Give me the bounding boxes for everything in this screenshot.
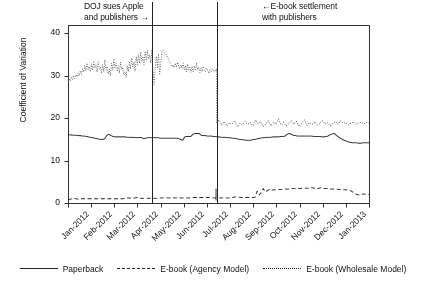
annotation-line: with publishers — [262, 12, 337, 23]
legend-label: Paperback — [63, 264, 104, 274]
cv-time-series-figure: DOJ sues Appleand publishers → ←E-book s… — [0, 0, 426, 289]
y-axis-label: Coefficient of Variation — [18, 10, 28, 150]
annotation-line: ←E-book settlement — [262, 1, 337, 12]
legend-line-swatch — [20, 265, 58, 273]
chart-legend: PaperbackE-book (Agency Model)E-book (Wh… — [0, 258, 426, 280]
y-tick-label: 40 — [32, 27, 60, 37]
legend-label: E-book (Wholesale Model) — [306, 264, 406, 274]
legend-line-swatch — [117, 265, 155, 273]
annotation-line: and publishers → — [84, 12, 149, 23]
annotation-ebook-settlement: ←E-book settlementwith publishers — [262, 1, 337, 22]
y-tick-label: 20 — [32, 112, 60, 122]
annotation-doj-sues-apple: DOJ sues Appleand publishers → — [84, 1, 149, 22]
legend-label: E-book (Agency Model) — [160, 264, 249, 274]
legend-item: Paperback — [20, 264, 104, 274]
y-tick-label: 10 — [32, 155, 60, 165]
y-tick-label: 0 — [32, 197, 60, 207]
legend-item: E-book (Agency Model) — [117, 264, 249, 274]
y-tick-label: 30 — [32, 70, 60, 80]
legend-line-swatch — [263, 265, 301, 273]
annotation-line: DOJ sues Apple — [84, 1, 149, 12]
legend-item: E-book (Wholesale Model) — [263, 264, 406, 274]
